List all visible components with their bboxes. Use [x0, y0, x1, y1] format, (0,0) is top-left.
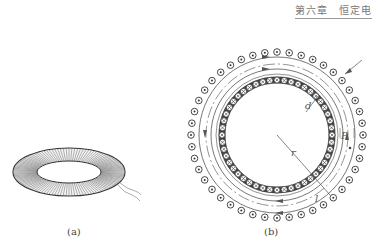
- label-d: d: [305, 100, 311, 111]
- label-l: l: [315, 193, 318, 204]
- figure-canvas: r d P l: [0, 0, 376, 251]
- caption-b: (b): [264, 226, 278, 237]
- toroid-coil-figure: [13, 148, 141, 201]
- toroid-cross-section-figure: r d P l: [188, 49, 367, 222]
- caption-a: (a): [67, 226, 81, 237]
- label-P: P: [340, 130, 348, 141]
